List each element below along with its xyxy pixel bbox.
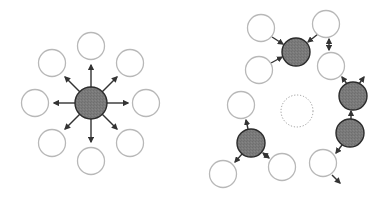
diagram-canvas: [0, 0, 386, 200]
hub-node: [75, 87, 107, 119]
arrow-icon: [332, 175, 340, 183]
cluster-hub-node: [237, 129, 265, 157]
satellite-node: [117, 130, 144, 157]
arrow-icon: [235, 154, 242, 162]
arrow-icon: [65, 77, 80, 92]
peer-node: [310, 150, 337, 177]
peer-node: [318, 53, 345, 80]
satellite-node: [22, 90, 49, 117]
network-diagram: [0, 0, 386, 200]
satellite-node: [39, 130, 66, 157]
satellite-node: [39, 50, 66, 77]
left-panel-hub-and-spoke: [22, 33, 160, 175]
double-arrow-icon: [263, 153, 269, 158]
arrow-icon: [336, 145, 342, 153]
cluster-hub-node: [336, 119, 364, 147]
arrow-icon: [246, 120, 248, 129]
peer-node: [246, 57, 273, 84]
cluster-hub-node: [339, 82, 367, 110]
satellite-node: [133, 90, 160, 117]
peer-node: [269, 154, 296, 181]
right-panel-clusters: [210, 11, 368, 188]
arrow-icon: [272, 37, 283, 44]
peer-node: [248, 15, 275, 42]
satellite-node: [78, 148, 105, 175]
peer-node: [210, 161, 237, 188]
empty-center-placeholder: [281, 95, 313, 127]
peer-node: [228, 92, 255, 119]
arrow-icon: [65, 114, 80, 129]
satellite-node: [78, 33, 105, 60]
arrow-icon: [308, 34, 318, 42]
satellite-node: [117, 50, 144, 77]
arrow-icon: [102, 77, 117, 92]
arrow-icon: [271, 57, 282, 63]
arrow-icon: [102, 114, 117, 129]
cluster-hub-node: [282, 38, 310, 66]
peer-node: [313, 11, 340, 38]
